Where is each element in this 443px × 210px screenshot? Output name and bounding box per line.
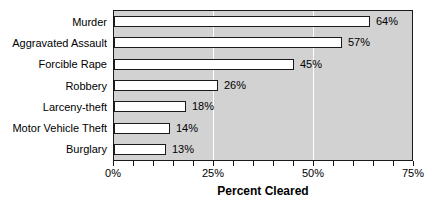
minor-tick-55 [333,161,334,166]
major-tick-0 [113,161,114,166]
bar-larceny-theft [114,101,186,112]
category-label: Larceny-theft [0,101,107,113]
crime-clearance-bar-chart: 64%57%45%26%18%14%13% MurderAggravated A… [0,0,443,210]
value-label: 26% [224,80,246,91]
tick-label-50: 50% [291,167,335,179]
category-label: Aggravated Assault [0,37,107,49]
value-label: 45% [300,59,322,70]
bar-aggravated-assault [114,37,342,48]
tick-label-75: 75% [391,167,435,179]
bar-forcible-rape [114,59,294,70]
minor-tick-60 [353,161,354,166]
bar-murder [114,16,370,27]
bar-robbery [114,80,218,91]
x-axis-title: Percent Cleared [113,184,413,198]
minor-tick-20 [193,161,194,166]
major-tick-50 [313,161,314,166]
minor-tick-30 [233,161,234,166]
category-label: Murder [0,16,107,28]
minor-tick-45 [293,161,294,166]
value-label: 14% [176,123,198,134]
minor-tick-65 [373,161,374,166]
value-label: 64% [376,16,398,27]
category-label: Motor Vehicle Theft [0,122,107,134]
plot-area: 64%57%45%26%18%14%13% [113,10,413,161]
gridline-50 [313,11,314,160]
minor-tick-40 [273,161,274,166]
category-label: Robbery [0,80,107,92]
tick-label-25: 25% [191,167,235,179]
minor-tick-10 [153,161,154,166]
category-label: Forcible Rape [0,58,107,70]
minor-tick-70 [393,161,394,166]
value-label: 57% [348,37,370,48]
tick-label-0: 0% [91,167,135,179]
minor-tick-35 [253,161,254,166]
minor-tick-15 [173,161,174,166]
category-label: Burglary [0,143,107,155]
minor-tick-5 [133,161,134,166]
bar-burglary [114,144,166,155]
bar-motor-vehicle-theft [114,123,170,134]
major-tick-25 [213,161,214,166]
major-tick-75 [413,161,414,166]
value-label: 18% [192,101,214,112]
value-label: 13% [172,144,194,155]
